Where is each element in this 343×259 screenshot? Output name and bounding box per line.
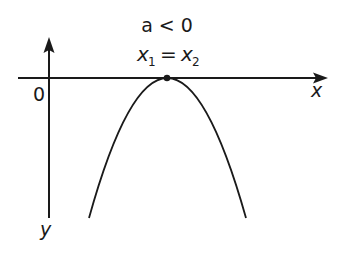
parabola-curve (89, 78, 246, 218)
equals-sign: = (160, 42, 177, 66)
y-axis-label: y (39, 218, 52, 240)
condition-label: a < 0 (141, 14, 193, 36)
parabola-diagram: a < 0 x 1 = x 2 0 x y (0, 0, 343, 259)
vertex-point (164, 75, 171, 82)
x-axis-label: x (310, 79, 323, 101)
roots-equation: x 1 = x 2 (136, 42, 200, 69)
origin-label: 0 (33, 83, 45, 105)
root-x2-subscript: 2 (192, 55, 200, 69)
root-x1-subscript: 1 (148, 55, 156, 69)
